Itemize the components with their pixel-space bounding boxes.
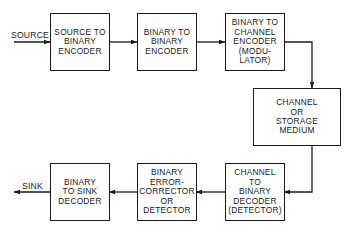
block-binary-error-corrector-or-detector: BINARY ERROR- CORRECTOR OR DETECTOR <box>137 163 197 221</box>
source-label: SOURCE <box>11 30 49 40</box>
block-text: ENCODER <box>58 47 101 56</box>
block-binary-to-binary-encoder: BINARY TO BINARY ENCODER <box>137 13 197 71</box>
block-text: ENCODER <box>145 47 188 56</box>
block-text: DETECTOR <box>143 206 191 215</box>
arrow-b4-to-b5 <box>284 145 312 192</box>
block-text: DECODER <box>58 197 101 206</box>
block-binary-to-sink-decoder: BINARY TO SINK DECODER <box>50 163 110 221</box>
block-binary-to-channel-encoder: BINARY TO CHANNEL ENCODER (MODU- LATOR) <box>225 13 285 71</box>
block-channel-to-binary-decoder: CHANNEL TO BINARY DECODER (DETECTOR) <box>225 163 285 221</box>
block-channel-or-storage-medium: CHANNEL OR STORAGE MEDIUM <box>253 88 341 146</box>
block-text: (DETECTOR) <box>228 206 282 215</box>
arrow-b3-to-b4 <box>284 42 312 88</box>
sink-label: SINK <box>22 181 43 191</box>
block-text: LATOR) <box>239 56 270 65</box>
block-text: MEDIUM <box>279 126 314 135</box>
block-source-to-binary-encoder: SOURCE TO BINARY ENCODER <box>50 13 110 71</box>
